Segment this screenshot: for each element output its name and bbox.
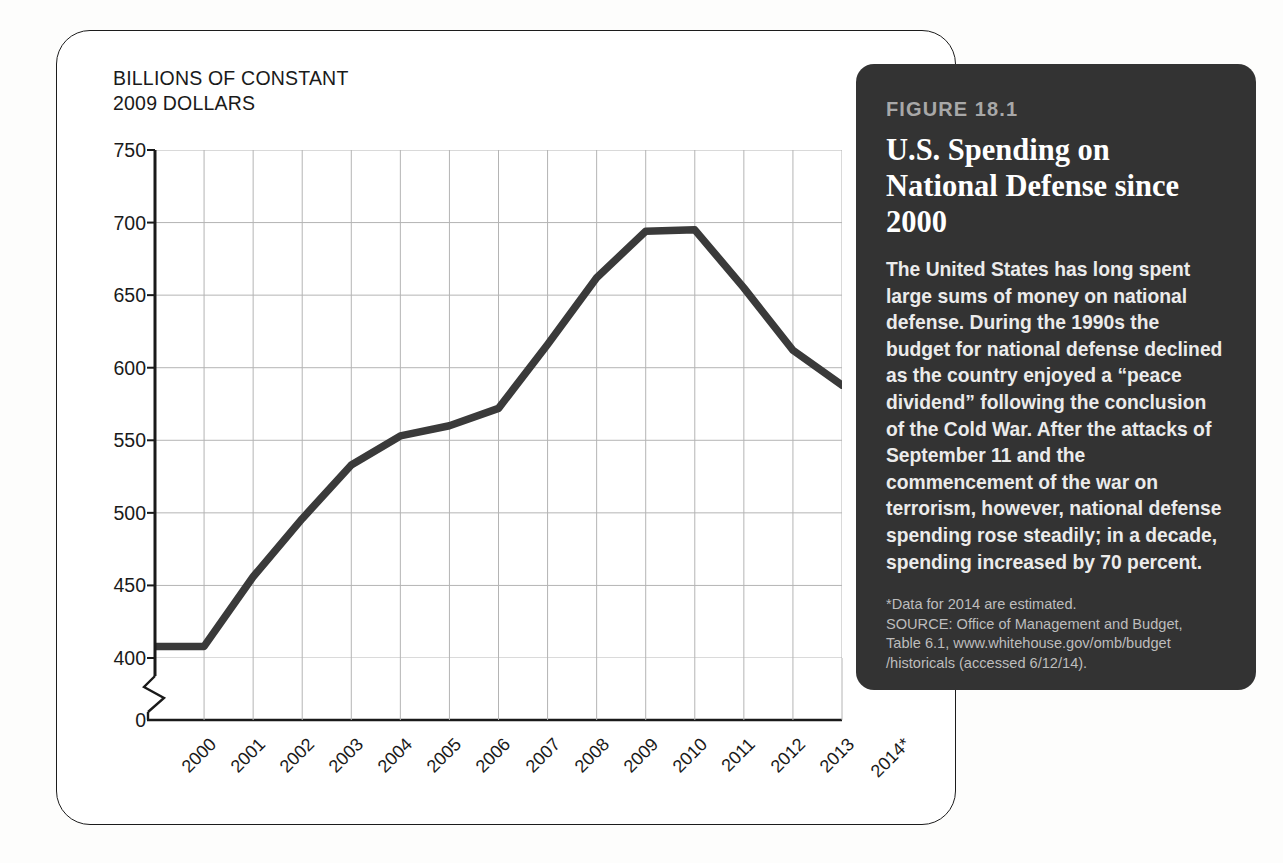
x-tick-label: 2005 — [423, 734, 466, 777]
x-tick-label: 2011 — [717, 734, 759, 776]
figure-number: FIGURE 18.1 — [886, 98, 1226, 121]
x-tick-label: 2003 — [325, 734, 368, 777]
x-tick-label: 2014* — [867, 734, 915, 782]
x-tick-label: 2007 — [521, 734, 564, 777]
x-tick-label: 2006 — [472, 734, 515, 777]
x-tick-label: 2009 — [619, 734, 662, 777]
figure-source-note: *Data for 2014 are estimated. SOURCE: Of… — [886, 595, 1226, 673]
x-tick-label: 2012 — [767, 734, 810, 777]
x-tick-label: 2000 — [178, 734, 221, 777]
x-tick-label: 2001 — [227, 734, 270, 777]
x-tick-label: 2004 — [374, 734, 417, 777]
x-tick-label: 2010 — [668, 734, 711, 777]
figure-body-text: The United States has long spent large s… — [886, 257, 1226, 576]
x-tick-label: 2008 — [570, 734, 613, 777]
figure-caption-panel: FIGURE 18.1 U.S. Spending on National De… — [856, 64, 1256, 690]
x-tick-label: 2013 — [816, 734, 859, 777]
figure-title: U.S. Spending on National Defense since … — [886, 132, 1226, 240]
x-tick-label: 2002 — [276, 734, 319, 777]
